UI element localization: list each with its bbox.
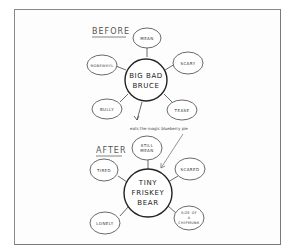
trait-label: TIRED (96, 168, 111, 173)
trait-label: MEAN (140, 36, 153, 41)
trait-label: BULLY (100, 107, 114, 112)
trait-label: LONELY (96, 221, 113, 226)
before-trait-mean: MEAN (133, 28, 161, 48)
before-trait-scary: SCARY (173, 52, 203, 74)
mind-map-diagram: BEFORE BIG BAD BRUCE MEAN SCARY TEASE BU… (0, 0, 293, 247)
after-center-line2: FRISKEY (132, 189, 165, 197)
trait-label: MOBEWHYL (90, 64, 113, 68)
before-heading: BEFORE (92, 27, 130, 36)
before-trait-mobewhyl: MOBEWHYL (87, 55, 117, 75)
before-center-node: BIG BAD BRUCE (125, 59, 167, 101)
after-heading: AFTER (96, 146, 126, 155)
trait-label-line3: CHIPMUNK (178, 221, 200, 225)
after-trait-size-of-chipmunk: SIZE OF A CHIPMUNK (174, 206, 204, 230)
after-trait-scared: SCARED (175, 158, 205, 180)
before-center-line2: BRUCE (132, 82, 159, 90)
trait-label-line2: MEAN (140, 148, 153, 153)
after-center-line3: BEAR (137, 199, 158, 207)
after-trait-still-mean: STILL MEAN (132, 136, 162, 160)
before-trait-tease: TEASE (167, 100, 197, 120)
before-center-circle (125, 59, 167, 101)
after-trait-lonely: LONELY (90, 212, 120, 234)
before-center-line1: BIG BAD (129, 72, 163, 80)
before-trait-bully: BULLY (92, 99, 122, 119)
transition-arrow-down (134, 102, 142, 120)
trait-label: TEASE (174, 108, 190, 113)
after-center-line1: TINY (138, 179, 157, 187)
after-center-node: TINY FRISKEY BEAR (124, 169, 172, 217)
transition-note: eats the magic blueberry pie (130, 126, 188, 131)
trait-label-line2: A (188, 216, 191, 220)
trait-label: SCARED (181, 167, 200, 172)
trait-label-line1: SIZE OF (181, 211, 197, 215)
after-trait-tired: TIRED (90, 159, 118, 181)
trait-label: SCARY (180, 61, 195, 66)
